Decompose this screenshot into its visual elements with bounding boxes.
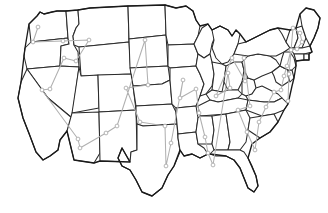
route-node-8: [76, 137, 80, 141]
route-node-42: [289, 48, 293, 52]
route-node-44: [300, 40, 304, 44]
route-node-36: [257, 120, 261, 124]
state-montana: [73, 6, 129, 47]
route-node-47: [287, 72, 291, 76]
route-node-19: [181, 78, 185, 82]
route-node-10: [104, 131, 108, 135]
route-node-34: [245, 130, 249, 134]
state-wyoming: [79, 42, 131, 76]
route-node-27: [228, 86, 232, 90]
route-node-14: [124, 86, 128, 90]
us-states-map: [0, 0, 328, 213]
route-node-46: [291, 26, 295, 30]
state-colorado: [98, 74, 136, 112]
route-node-31: [242, 56, 246, 60]
route-node-24: [206, 151, 210, 155]
route-node-16: [163, 124, 167, 128]
route-node-12: [143, 38, 147, 42]
route-node-2: [61, 39, 65, 43]
route-node-45: [298, 31, 302, 35]
route-node-43: [295, 47, 299, 51]
state-north-dakota: [128, 5, 166, 39]
route-node-29: [230, 56, 234, 60]
route-node-25: [211, 163, 215, 167]
state-iowa: [168, 44, 198, 68]
route-node-23: [203, 135, 207, 139]
route-node-41: [285, 64, 289, 68]
route-node-39: [279, 88, 283, 92]
state-south-dakota: [129, 35, 168, 68]
route-node-4: [74, 59, 78, 63]
route-node-35: [253, 148, 257, 152]
route-node-20: [178, 96, 182, 100]
route-node-5: [62, 56, 66, 60]
route-node-30: [243, 79, 247, 83]
route-node-37: [264, 105, 268, 109]
route-node-32: [248, 104, 252, 108]
route-node-9: [78, 146, 82, 150]
state-rhode-island: [304, 54, 309, 60]
route-node-15: [138, 120, 142, 124]
route-node-17: [164, 164, 168, 168]
route-node-3: [87, 38, 91, 42]
route-node-38: [272, 90, 276, 94]
route-node-13: [146, 83, 150, 87]
route-node-0: [36, 25, 40, 29]
route-node-11: [115, 124, 119, 128]
route-node-7: [40, 88, 44, 92]
route-node-21: [194, 87, 198, 91]
route-node-1: [31, 40, 35, 44]
state-arkansas: [176, 106, 198, 134]
route-node-28: [214, 94, 218, 98]
route-node-48: [286, 99, 290, 103]
route-node-33: [236, 108, 240, 112]
route-node-6: [48, 87, 52, 91]
route-node-18: [169, 141, 173, 145]
route-node-40: [282, 74, 286, 78]
route-node-22: [197, 111, 201, 115]
map-figure-container: United States State Outline Map with Tou…: [0, 0, 328, 213]
route-node-26: [226, 71, 230, 75]
